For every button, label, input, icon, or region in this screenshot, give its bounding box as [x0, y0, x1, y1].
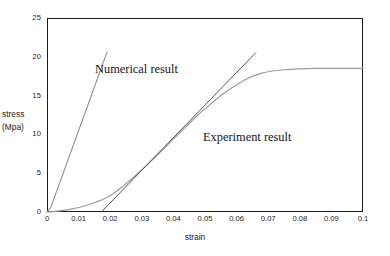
x-tick-label: 0.09 — [324, 214, 339, 223]
annotation-numerical-result: Numerical result — [95, 62, 178, 77]
x-tick-label: 0 — [45, 214, 49, 223]
annotation-experiment-result: Experiment result — [203, 130, 291, 145]
y-tick-label: 25 — [32, 13, 41, 22]
y-axis-title-line2: (Mpa) — [2, 121, 46, 134]
x-tick-label: 0.07 — [261, 214, 276, 223]
y-axis-title: stress (Mpa) — [2, 108, 46, 134]
x-tick-label: 0.1 — [358, 214, 369, 223]
x-tick-label: 0.06 — [229, 214, 244, 223]
x-tick-label: 0.05 — [198, 214, 213, 223]
x-axis-tick-labels: 00.010.020.030.040.050.060.070.080.090.1 — [0, 214, 390, 230]
y-axis-title-line1: stress — [2, 109, 24, 119]
x-tick-label: 0.08 — [292, 214, 307, 223]
x-tick-label: 0.01 — [71, 214, 86, 223]
x-tick-label: 0.03 — [134, 214, 149, 223]
y-tick-label: 5 — [37, 168, 41, 177]
y-tick-label: 20 — [32, 52, 41, 61]
y-tick-label: 15 — [32, 91, 41, 100]
x-tick-label: 0.02 — [103, 214, 118, 223]
x-axis-title: strain — [0, 232, 390, 242]
x-tick-label: 0.04 — [166, 214, 181, 223]
chart-plot-area — [47, 18, 363, 212]
chart-container: 0510152025 stress (Mpa) Numerical result… — [0, 0, 390, 256]
